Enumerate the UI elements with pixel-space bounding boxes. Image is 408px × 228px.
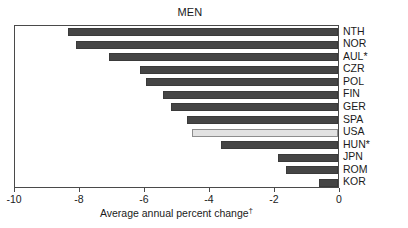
- bar-row: [15, 39, 338, 52]
- bar-row: [15, 64, 338, 77]
- category-label-spa: SPA: [343, 114, 363, 125]
- x-tick-label: -2: [269, 193, 278, 205]
- x-tick: [79, 188, 80, 192]
- x-tick: [209, 188, 210, 192]
- category-label-pol: POL: [343, 76, 364, 87]
- x-axis-title: Average annual percent change†: [14, 207, 339, 219]
- bar-row: [15, 76, 338, 89]
- x-tick-label: 0: [336, 193, 342, 205]
- plot-area: [14, 25, 339, 188]
- category-label-jpn: JPN: [343, 151, 363, 162]
- x-tick-label: -10: [6, 193, 21, 205]
- bar-row: [15, 114, 338, 127]
- x-tick: [274, 188, 275, 192]
- category-label-hun: HUN*: [343, 139, 370, 150]
- category-label-ger: GER: [343, 101, 366, 112]
- category-label-nth: NTH: [343, 26, 365, 37]
- x-tick: [144, 188, 145, 192]
- bar-kor: [319, 179, 339, 187]
- x-axis-title-footnote-marker: †: [249, 206, 253, 215]
- bar-aul: [109, 53, 338, 61]
- category-label-nor: NOR: [343, 38, 366, 49]
- category-label-czr: CZR: [343, 63, 365, 74]
- bar-jpn: [278, 154, 338, 162]
- bar-nth: [68, 28, 338, 36]
- x-axis-title-text: Average annual percent change: [100, 207, 249, 219]
- bar-row: [15, 164, 338, 177]
- bar-row: [15, 151, 338, 164]
- bar-czr: [140, 66, 338, 74]
- bar-row: [15, 101, 338, 114]
- category-label-rom: ROM: [343, 164, 368, 175]
- bar-spa: [187, 116, 338, 124]
- chart-figure: MEN NTHNORAUL*CZRPOLFINGERSPAUSAHUN*JPNR…: [0, 0, 408, 228]
- bar-row: [15, 89, 338, 102]
- bars-layer: [15, 26, 338, 187]
- bar-nor: [76, 41, 338, 49]
- bar-row: [15, 26, 338, 39]
- x-tick: [339, 188, 340, 192]
- bar-fin: [163, 91, 339, 99]
- x-tick-label: -6: [139, 193, 148, 205]
- bar-row: [15, 126, 338, 139]
- bar-hun: [221, 141, 338, 149]
- bar-rom: [286, 166, 338, 174]
- bar-pol: [146, 78, 338, 86]
- chart-title: MEN: [0, 6, 380, 18]
- category-label-aul: AUL*: [343, 51, 368, 62]
- bar-row: [15, 176, 338, 189]
- bar-row: [15, 139, 338, 152]
- x-tick-label: -4: [204, 193, 213, 205]
- bar-row: [15, 51, 338, 64]
- x-tick: [14, 188, 15, 192]
- x-tick-label: -8: [74, 193, 83, 205]
- bar-usa: [192, 129, 338, 137]
- category-label-usa: USA: [343, 126, 365, 137]
- bar-ger: [171, 103, 338, 111]
- category-label-fin: FIN: [343, 88, 360, 99]
- category-label-kor: KOR: [343, 176, 366, 187]
